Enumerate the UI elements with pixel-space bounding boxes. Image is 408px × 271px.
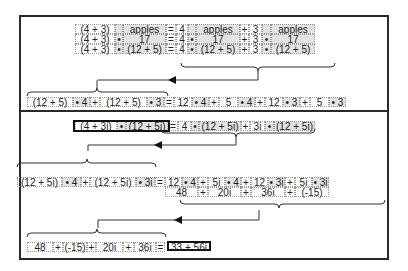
arrowhead-top [168, 76, 176, 84]
arrow-top [168, 71, 258, 80]
brace-top-left [27, 88, 168, 96]
brace-bottom-row3 [180, 200, 385, 208]
brace-bottom-row1 [161, 129, 315, 137]
brace-bottom-row4-left [27, 229, 166, 237]
brace-bottom-row2-left [17, 159, 156, 167]
arrowhead-bottom-2 [174, 216, 182, 224]
braces-and-arrows [0, 0, 408, 271]
arrowhead-bottom-1 [154, 141, 162, 149]
brace-top-right [181, 63, 335, 71]
